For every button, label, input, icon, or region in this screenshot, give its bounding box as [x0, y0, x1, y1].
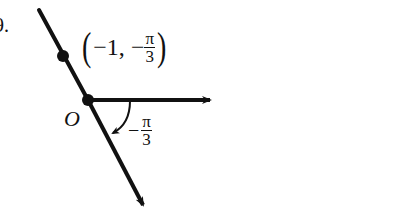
angle-fraction: π 3 — [141, 113, 152, 148]
theta-numerator: π — [144, 30, 155, 48]
paren-close: ) — [157, 27, 166, 67]
theta-denominator: 3 — [145, 48, 154, 65]
theta-fraction: π 3 — [144, 30, 155, 65]
angle-sign: − — [128, 119, 139, 142]
theta-sign: − — [131, 34, 145, 61]
point-marker — [57, 50, 69, 62]
origin-marker — [82, 94, 94, 106]
origin-label: O — [64, 106, 80, 132]
paren-open: ( — [82, 27, 91, 67]
polar-diagram — [0, 0, 402, 222]
r-value: −1, — [93, 34, 125, 61]
point-label: ( −1, − π 3 ) — [80, 27, 168, 67]
angle-numerator: π — [141, 113, 152, 131]
angle-denominator: 3 — [142, 131, 151, 148]
angle-label: − π 3 — [128, 113, 152, 148]
